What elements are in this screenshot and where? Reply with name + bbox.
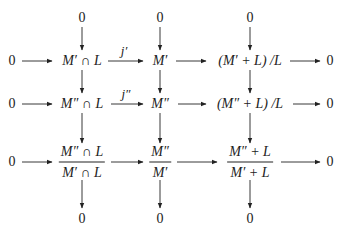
- node-m-dprime-cap-l: M″ ∩ L: [61, 97, 103, 111]
- node-m-prime-plus-l-mod-l: (M′ + L) /L: [218, 54, 281, 68]
- zero-bottom-col1: 0: [79, 212, 86, 226]
- zero-left-row2: 0: [9, 97, 16, 111]
- zero-left-row1: 0: [9, 54, 16, 68]
- node-quotient-sum: M″ + L M′ + L: [227, 145, 273, 180]
- zero-top-col2: 0: [157, 11, 164, 25]
- zero-top-col3: 0: [247, 11, 254, 25]
- zero-left-row3: 0: [9, 155, 16, 169]
- node-m-dprime: M″: [151, 97, 169, 111]
- fraction-numerator: M″: [149, 145, 171, 163]
- node-m-prime: M′: [153, 54, 168, 68]
- arrow-label-j-dprime: j″: [121, 86, 130, 102]
- fraction-denominator: M′: [151, 163, 170, 180]
- zero-top-col1: 0: [79, 11, 86, 25]
- diagram-arrows: [0, 0, 342, 234]
- zero-right-row3: 0: [327, 155, 334, 169]
- fraction-numerator: M″ ∩ L: [59, 145, 105, 163]
- zero-right-row1: 0: [327, 54, 334, 68]
- node-m-prime-cap-l: M′ ∩ L: [62, 54, 102, 68]
- zero-bottom-col3: 0: [247, 212, 254, 226]
- node-m-dprime-plus-l-mod-l: (M″ + L) /L: [217, 97, 283, 111]
- zero-right-row2: 0: [327, 97, 334, 111]
- fraction-numerator: M″ + L: [227, 145, 273, 163]
- zero-bottom-col2: 0: [157, 212, 164, 226]
- arrow-label-j-prime: j′: [121, 43, 127, 59]
- fraction-denominator: M′ + L: [229, 163, 272, 180]
- fraction-denominator: M′ ∩ L: [60, 163, 104, 180]
- node-quotient-m: M″ M′: [149, 145, 171, 180]
- node-quotient-cap: M″ ∩ L M′ ∩ L: [59, 145, 105, 180]
